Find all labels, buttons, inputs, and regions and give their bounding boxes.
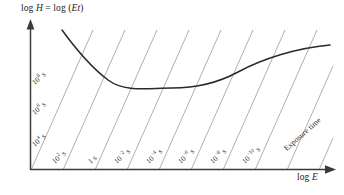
diagonal-line-10e-10 — [319, 138, 333, 170]
reciprocity-curve — [62, 30, 330, 89]
diagonal-line-10e6 — [63, 30, 125, 170]
y-axis-label-mid: = log ( — [43, 3, 72, 13]
y-axis — [27, 19, 35, 170]
x-axis-label-var: E — [312, 172, 318, 182]
y-axis-label-prefix: log — [21, 3, 36, 13]
x-axis-label: log E — [297, 172, 318, 182]
x-axis — [30, 165, 336, 174]
plot-canvas — [0, 0, 344, 195]
y-axis-label-var: H — [36, 3, 43, 13]
x-axis-label-prefix: log — [297, 172, 312, 182]
y-axis-label-var2: Et — [71, 3, 80, 13]
reciprocity-failure-figure: log H = log (Et) log E 108 s 106 s 104 s… — [0, 0, 344, 195]
y-axis-label: log H = log (Et) — [21, 3, 83, 13]
y-axis-label-suffix: ) — [80, 3, 83, 13]
